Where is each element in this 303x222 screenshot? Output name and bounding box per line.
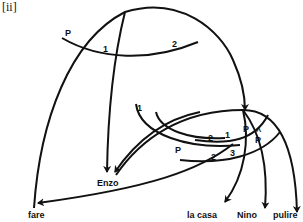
- upper-marker-p: P: [65, 28, 71, 38]
- lower-marker-2b: 2: [211, 152, 216, 162]
- lower-marker-2a: 2: [208, 133, 213, 143]
- lower-marker-p: P: [175, 145, 181, 155]
- upper-marker-2: 2: [172, 39, 177, 49]
- lower-inner-hook: [156, 112, 225, 138]
- lower-marker-p2: P: [243, 124, 249, 134]
- arc-diagram: P 1 2 1 P 2 1 P P ^ 2 3: [0, 0, 303, 222]
- upper-marker-1: 1: [103, 44, 108, 54]
- node-fare: fare: [28, 210, 45, 220]
- node-nino: Nino: [237, 210, 257, 220]
- upper-crossbar: [62, 38, 198, 56]
- lower-marker-hat-p: P: [255, 135, 261, 145]
- upper-vertical-to-enzo: [107, 12, 125, 172]
- lower-marker-1b: 1: [225, 130, 230, 140]
- node-enzo: Enzo: [97, 178, 119, 188]
- lower-marker-1: 1: [137, 103, 142, 113]
- lower-marker-3: 3: [230, 148, 235, 158]
- node-la-casa: la casa: [187, 210, 217, 220]
- lower-marker-hat: ^: [256, 126, 262, 136]
- node-pulire: pulire: [273, 210, 298, 220]
